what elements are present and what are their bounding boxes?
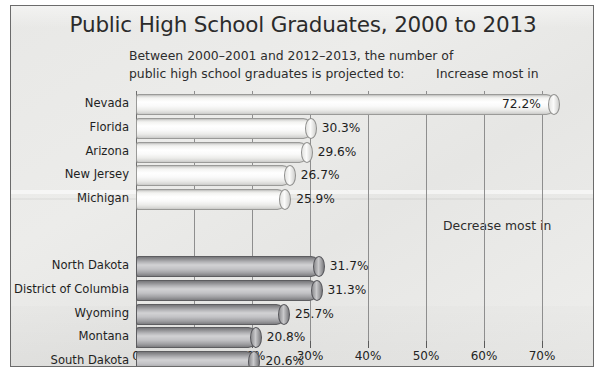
bar-row: North Dakota31.7% [136, 256, 320, 277]
bar-category-label: Nevada [85, 96, 129, 110]
bar-category-label: South Dakota [51, 353, 129, 367]
chart-title: Public High School Graduates, 2000 to 20… [11, 12, 594, 37]
bar-value-label: 72.2% [502, 97, 541, 111]
bar-end-cap [250, 327, 262, 348]
bar [136, 142, 308, 163]
bar-value-label: 25.9% [296, 192, 335, 206]
gridline-40% [368, 91, 369, 341]
bar-category-label: Florida [90, 120, 129, 134]
tick-mark-50% [426, 341, 427, 348]
bar-value-label: 25.7% [295, 307, 334, 321]
bar-row: Montana20.8% [136, 327, 257, 348]
bar-category-label: Michigan [77, 191, 129, 205]
bar-category-label: District of Columbia [14, 282, 129, 296]
chart-subtitle-line-1: Between 2000–2001 and 2012–2013, the num… [129, 48, 453, 63]
bar-end-cap [313, 256, 325, 277]
bar-category-label: New Jersey [65, 167, 129, 181]
bar [136, 189, 286, 210]
gridline-60% [484, 91, 485, 341]
bar-end-cap [279, 189, 291, 210]
tick-label-40%: 40% [355, 349, 382, 363]
gridline-70% [542, 91, 543, 341]
bar-row: Michigan25.9% [136, 189, 286, 210]
bar-row: South Dakota20.6% [136, 351, 255, 367]
bar-category-label: Wyoming [75, 306, 129, 320]
bar-category-label: North Dakota [52, 258, 129, 272]
bar-end-cap [284, 165, 296, 186]
bar-row: District of Columbia31.3% [136, 280, 318, 301]
bar [136, 280, 318, 301]
bar [136, 165, 291, 186]
tick-label-50%: 50% [413, 349, 440, 363]
bar-value-label: 20.6% [265, 354, 304, 367]
bar-value-label: 26.7% [301, 168, 340, 182]
bar-row: Wyoming25.7% [136, 304, 285, 325]
bar-row: Arizona29.6% [136, 142, 308, 163]
bar-end-cap [311, 280, 323, 301]
bar-value-label: 31.3% [328, 283, 367, 297]
bar-value-label: 29.6% [318, 145, 357, 159]
group-caption-increase: Increase most in [436, 66, 539, 81]
bar [136, 351, 255, 367]
bar-row: Nevada72.2% [136, 94, 555, 115]
plot-area: 010%20%30%40%50%60%70% Nevada72.2%Florid… [136, 91, 571, 341]
tick-mark-70% [542, 341, 543, 348]
bar [136, 327, 257, 348]
chart-subtitle-line-2: public high school graduates is projecte… [129, 66, 404, 81]
bar-row: Florida30.3% [136, 118, 312, 139]
bar [136, 118, 312, 139]
chart-figure: Public High School Graduates, 2000 to 20… [0, 0, 606, 377]
bar-end-cap [305, 118, 317, 139]
bar-end-cap [278, 304, 290, 325]
bar [136, 256, 320, 277]
bar-category-label: Montana [78, 329, 129, 343]
bar-value-label: 31.7% [330, 259, 369, 273]
bar-row: New Jersey26.7% [136, 165, 291, 186]
tick-mark-60% [484, 341, 485, 348]
gridline-50% [426, 91, 427, 341]
bar-end-cap [301, 142, 313, 163]
tick-mark-40% [368, 341, 369, 348]
bar-category-label: Arizona [85, 144, 129, 158]
chart-frame-border: Public High School Graduates, 2000 to 20… [10, 5, 594, 367]
bar [136, 94, 555, 115]
tick-label-60%: 60% [471, 349, 498, 363]
bar-value-label: 20.8% [267, 330, 306, 344]
bar-value-label: 30.3% [322, 121, 361, 135]
tick-label-70%: 70% [529, 349, 556, 363]
bar [136, 304, 285, 325]
tick-mark-30% [310, 341, 311, 348]
bar-end-cap [548, 94, 560, 115]
